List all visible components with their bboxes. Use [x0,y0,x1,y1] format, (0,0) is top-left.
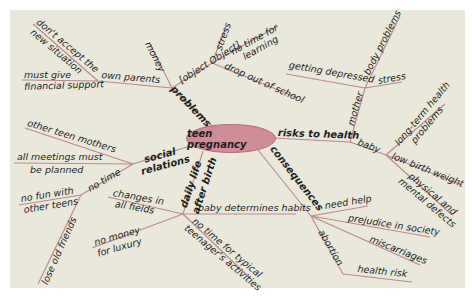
node-all-meetings-line2: be planned [30,165,83,175]
node-baby-determines-habits: baby determines habits [198,203,311,213]
central-topic-label: teen pregnancy [187,128,275,150]
node-must-give-line1: must give [24,70,71,80]
central-topic-node: teen pregnancy [186,124,276,153]
node-all-meetings-line1: all meetings must [17,152,102,162]
